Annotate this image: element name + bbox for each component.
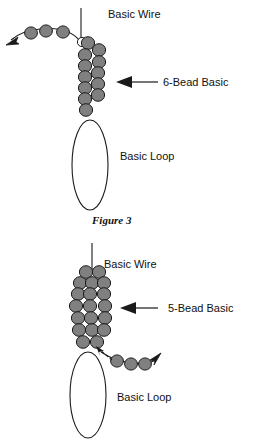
bead — [71, 288, 84, 301]
bead-group-callout-arrow-top — [116, 76, 158, 88]
bead — [57, 26, 70, 38]
bead — [40, 25, 53, 37]
callout-arrowhead-icon — [116, 76, 132, 88]
bead-cluster-bottom-left-column — [69, 277, 89, 349]
basic-loop-label-bottom: Basic Loop — [117, 391, 171, 403]
feed-arrow-bottom — [96, 346, 112, 360]
bead — [91, 89, 104, 102]
bead — [125, 358, 138, 370]
bead — [83, 300, 96, 313]
bead — [79, 104, 92, 117]
basic-wire-label-top: Basic Wire — [108, 8, 161, 20]
basic-loop-top — [72, 120, 108, 210]
figure-bottom: Basic Wire 5-Bead Basic Basic Loop — [69, 243, 234, 438]
bead — [92, 44, 105, 57]
bead — [98, 312, 111, 325]
bead — [85, 324, 98, 337]
bead — [111, 355, 124, 367]
bead-cluster-top-right-column — [91, 44, 105, 102]
beading-diagram-svg: Basic Wire 6-Bead Basic Basic Loop Figur… — [0, 0, 255, 442]
figure-caption: Figure 3 — [91, 214, 132, 226]
callout-arrowhead-icon — [120, 302, 136, 314]
tail-beads-bottom — [111, 355, 152, 370]
bead — [97, 324, 110, 337]
basic-loop-label-top: Basic Loop — [120, 150, 174, 162]
bead — [98, 300, 111, 313]
bead-group-callout-arrow-bottom — [120, 302, 158, 314]
figure-root: Basic Wire 6-Bead Basic Basic Loop Figur… — [0, 0, 255, 442]
bead — [85, 277, 98, 290]
bead — [90, 336, 103, 349]
bead — [97, 288, 110, 301]
bead — [139, 358, 152, 370]
bead — [83, 288, 96, 301]
bead — [25, 27, 38, 39]
basic-wire-label-bottom: Basic Wire — [104, 258, 157, 270]
tail-beads-top — [25, 25, 70, 39]
bead — [76, 336, 89, 349]
bead — [72, 324, 85, 337]
bead — [71, 312, 84, 325]
bead-group-label-top: 6-Bead Basic — [163, 76, 229, 88]
bead — [69, 300, 82, 313]
basic-loop-bottom — [70, 352, 106, 438]
bead — [84, 312, 97, 325]
bead-group-label-bottom: 5-Bead Basic — [168, 302, 234, 314]
feed-arrow-line — [100, 350, 112, 360]
figure-top: Basic Wire 6-Bead Basic Basic Loop — [6, 8, 229, 210]
